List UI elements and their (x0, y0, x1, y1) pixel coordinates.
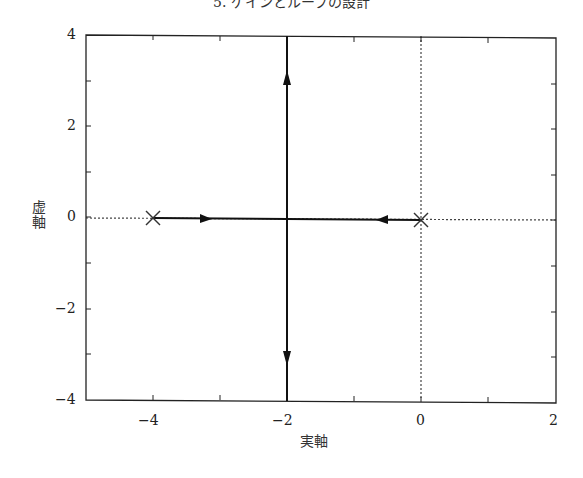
root-locus-plot (0, 0, 583, 478)
arrow-up-icon (283, 70, 291, 85)
y-tick-label: 0 (67, 208, 76, 224)
x-tick-label: 2 (549, 412, 558, 428)
y-axis-label: 虚軸 (28, 200, 48, 230)
y-tick-label: 2 (67, 117, 76, 133)
y-tick-label: −4 (55, 391, 76, 407)
y-tick-label: 4 (67, 26, 76, 42)
x-axis-label: 実軸 (300, 430, 328, 450)
arrow-left-icon (376, 215, 388, 224)
arrow-right-icon (200, 214, 212, 223)
x-tick-label: −2 (272, 412, 293, 428)
arrow-down-icon (283, 351, 291, 366)
x-tick-label: 0 (416, 412, 425, 428)
x-tick-label: −4 (138, 412, 159, 428)
y-tick-label: −2 (55, 300, 76, 316)
